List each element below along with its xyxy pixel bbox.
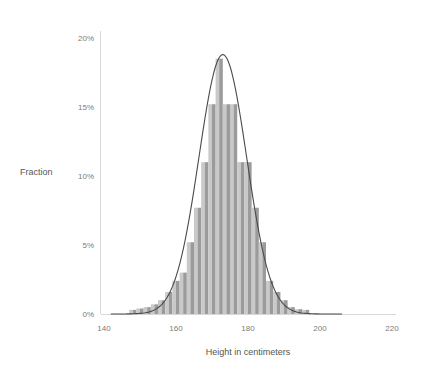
y-tick-label: 20% [78, 34, 94, 43]
histogram-bar [194, 208, 198, 314]
x-axis-title: Height in centimeters [206, 347, 291, 357]
x-tick-label: 160 [169, 324, 183, 333]
y-tick-label: 5% [82, 241, 94, 250]
y-axis-title: Fraction [20, 167, 53, 177]
x-tick-label: 140 [97, 324, 111, 333]
y-tick-label: 15% [78, 103, 94, 112]
histogram-bar [223, 104, 227, 314]
histogram-bars [129, 59, 309, 314]
histogram-bar [266, 281, 270, 314]
x-tick-label: 220 [385, 324, 399, 333]
histogram-bar [187, 242, 191, 314]
histogram-bar [201, 162, 205, 314]
y-tick-label: 0% [82, 310, 94, 319]
histogram-bar [230, 104, 234, 314]
x-axis-ticks: 140 160 180 200 220 [97, 324, 399, 333]
histogram-bar [237, 162, 241, 314]
histogram-bar [244, 162, 248, 314]
histogram-bar [180, 273, 184, 314]
histogram-bar [169, 292, 173, 314]
x-tick-label: 200 [313, 324, 327, 333]
histogram-bar [219, 59, 223, 314]
histogram-bar [151, 304, 155, 314]
y-tick-label: 10% [78, 172, 94, 181]
histogram-bar [241, 162, 245, 314]
histogram-bar [205, 162, 209, 314]
x-tick-label: 180 [241, 324, 255, 333]
histogram-bar [176, 281, 180, 314]
histogram-bar [273, 292, 277, 314]
histogram-bar [198, 208, 202, 314]
histogram-chart: 20% 15% 10% 5% 0% 140 160 180 200 220 He… [0, 0, 429, 381]
histogram-bar [252, 208, 256, 314]
histogram-bar [183, 273, 187, 314]
histogram-bar [234, 104, 238, 314]
chart-canvas: 20% 15% 10% 5% 0% 140 160 180 200 220 He… [0, 0, 429, 381]
histogram-bar [190, 242, 194, 314]
y-axis-ticks: 20% 15% 10% 5% 0% [78, 34, 94, 319]
histogram-bar [208, 104, 212, 314]
histogram-bar [147, 307, 151, 314]
histogram-bar [212, 104, 216, 314]
histogram-bar [226, 104, 230, 314]
histogram-bar [216, 59, 220, 314]
histogram-bar [259, 242, 263, 314]
